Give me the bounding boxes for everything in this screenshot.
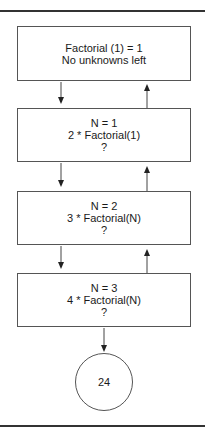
arrows: [0, 0, 205, 428]
bottom-rule: [0, 425, 205, 427]
